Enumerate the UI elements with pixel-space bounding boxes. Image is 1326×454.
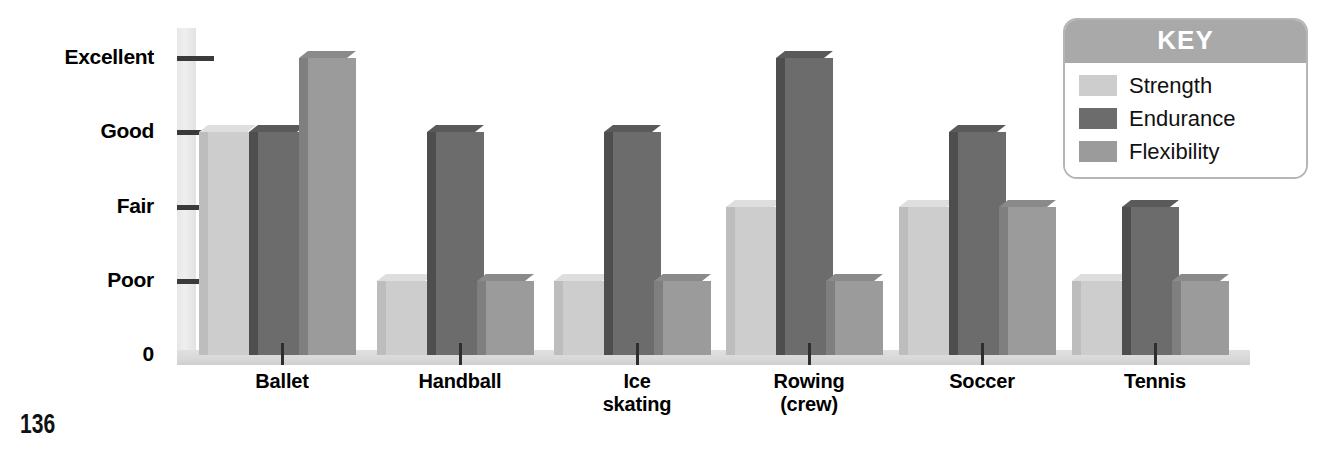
bar-front-face [835,281,883,355]
x-axis-label-soccer: Soccer [887,370,1077,393]
legend-label-strength: Strength [1129,75,1212,97]
bar-front-face [486,281,534,355]
bar-side-face [299,58,308,355]
bar-top-face [554,274,611,281]
x-axis-label-tennis: Tennis [1060,370,1250,393]
bar-side-face [949,132,958,355]
bar-side-face [377,281,386,355]
bar-front-face [1181,281,1229,355]
legend-swatch-strength [1079,75,1117,96]
legend-item-flexibility: Flexibility [1079,135,1306,168]
bar-side-face [477,281,486,355]
x-axis-label-handball: Handball [365,370,555,393]
bar-flexibility-ballet [308,58,356,355]
bar-side-face [826,281,835,355]
x-axis-tick [1154,343,1157,365]
bar-flexibility-soccer [1008,207,1056,356]
chart-page: ExcellentGoodFairPoor0 BalletHandballIce… [0,0,1326,454]
bar-side-face [249,132,258,355]
bar-top-face [1122,200,1179,207]
legend-swatch-flexibility [1079,141,1117,162]
bar-top-face [427,125,484,132]
bar-top-face [999,200,1056,207]
bar-side-face [1172,281,1181,355]
bar-top-face [477,274,534,281]
bar-flexibility-iceskating [663,281,711,355]
bar-side-face [1122,207,1131,356]
legend-item-strength: Strength [1079,69,1306,102]
bar-top-face [776,51,833,58]
x-axis-tick [281,343,284,365]
bar-top-face [377,274,434,281]
bar-side-face [427,132,436,355]
bar-top-face [826,274,883,281]
legend-items: StrengthEnduranceFlexibility [1065,63,1306,177]
x-axis-label-iceskating: Ice skating [542,370,732,416]
bar-top-face [899,200,956,207]
bar-side-face [199,132,208,355]
bar-top-face [1072,274,1129,281]
bar-side-face [1072,281,1081,355]
bar-flexibility-rowingcrew [835,281,883,355]
bar-side-face [999,207,1008,356]
bar-flexibility-tennis [1181,281,1229,355]
bar-side-face [776,58,785,355]
bar-front-face [663,281,711,355]
bar-side-face [899,207,908,356]
page-number: 136 [20,409,55,440]
bar-top-face [949,125,1006,132]
bar-side-face [654,281,663,355]
x-axis-tick [981,343,984,365]
bar-side-face [554,281,563,355]
bar-flexibility-handball [486,281,534,355]
legend-title: KEY [1065,20,1306,63]
bar-top-face [1172,274,1229,281]
bar-top-face [199,125,256,132]
bar-top-face [604,125,661,132]
x-axis-tick [459,343,462,365]
bar-front-face [308,58,356,355]
legend-label-endurance: Endurance [1129,108,1235,130]
legend-swatch-endurance [1079,108,1117,129]
bar-side-face [726,207,735,356]
x-axis-label-rowingcrew: Rowing (crew) [714,370,904,416]
bar-top-face [726,200,783,207]
legend-item-endurance: Endurance [1079,102,1306,135]
legend-label-flexibility: Flexibility [1129,141,1219,163]
bar-side-face [604,132,613,355]
bar-top-face [654,274,711,281]
legend-key-box: KEY StrengthEnduranceFlexibility [1063,18,1308,179]
x-axis-tick [808,343,811,365]
bar-front-face [1008,207,1056,356]
bar-top-face [249,125,306,132]
x-axis-label-ballet: Ballet [187,370,377,393]
bar-top-face [299,51,356,58]
x-axis-tick [636,343,639,365]
